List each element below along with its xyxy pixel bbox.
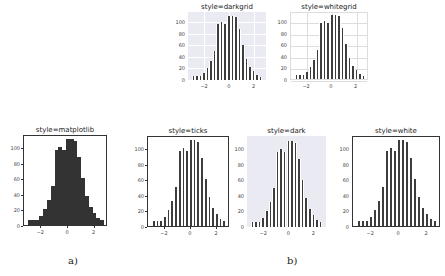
gridline-horizontal [188,80,266,81]
y-tick-mark [145,180,147,181]
y-tick-mark [21,179,23,180]
chart-title: style=ticks [169,127,208,135]
x-tick-label: 2 [252,83,255,89]
x-tick-mark [94,226,95,228]
histogram-bar [259,77,263,80]
plot-area [188,12,266,80]
y-tick-label: 80 [130,162,144,168]
y-tick-label: 40 [6,192,20,198]
y-tick-label: 100 [230,146,244,152]
chart-title: style=whitegrid [301,3,357,11]
x-tick-label: 0 [188,230,191,236]
histogram-bar [100,220,104,225]
gridline-vertical [204,12,205,80]
y-tick-label: 100 [6,145,20,151]
plot-area [290,12,368,80]
chart-title: style=dark [267,127,305,135]
y-tick-label: 20 [171,65,185,71]
gridline-vertical [307,13,308,79]
y-tick-label: 0 [230,224,244,230]
y-tick-label: 100 [171,19,185,25]
x-tick-label: −2 [200,83,207,89]
y-tick-label: 60 [171,42,185,48]
y-tick-label: 60 [130,177,144,183]
gridline-horizontal [291,81,367,82]
x-tick-mark [40,226,41,228]
x-tick-label: 0 [287,230,290,236]
y-tick-label: 60 [230,177,244,183]
y-tick-mark [145,196,147,197]
y-tick-mark [21,210,23,211]
y-tick-label: 80 [230,162,244,168]
y-tick-label: 20 [273,65,287,71]
y-tick-label: 60 [6,176,20,182]
y-tick-label: 80 [171,31,185,37]
y-tick-label: 20 [130,208,144,214]
y-tick-label: 60 [335,177,349,183]
y-tick-label: 100 [273,19,287,25]
caption-a: a) [68,255,78,266]
plot-area [247,136,326,227]
y-tick-mark [145,149,147,150]
y-tick-mark [145,227,147,228]
x-tick-mark [190,227,191,229]
y-tick-label: 40 [171,54,185,60]
chart-title: style=matplotlib [36,126,94,134]
y-tick-label: 40 [130,193,144,199]
chart-title: style=darkgrid [201,3,253,11]
y-tick-label: 40 [335,193,349,199]
x-tick-label: 2 [214,230,217,236]
x-tick-label: 2 [92,229,95,235]
y-tick-mark [145,211,147,212]
y-tick-mark [21,226,23,227]
x-tick-label: −2 [37,229,44,235]
y-tick-mark [21,195,23,196]
y-tick-label: 100 [130,146,144,152]
x-tick-label: −2 [302,83,309,89]
histogram-bar [319,222,323,227]
y-tick-mark [21,164,23,165]
y-tick-label: 0 [6,223,20,229]
y-tick-label: 60 [273,42,287,48]
caption-b: b) [287,255,297,266]
x-tick-mark [67,226,68,228]
x-tick-label: 2 [424,230,427,236]
x-tick-label: 0 [329,83,332,89]
plot-area [147,136,229,227]
plot-area [23,135,107,226]
histogram-bar [362,76,366,79]
y-tick-label: 0 [273,77,287,83]
x-tick-mark [164,227,165,229]
y-tick-label: 80 [273,31,287,37]
y-tick-label: 20 [335,208,349,214]
plot-area [352,136,440,227]
y-tick-label: 0 [130,224,144,230]
y-tick-label: 40 [273,54,287,60]
x-tick-label: 0 [397,230,400,236]
y-tick-mark [21,148,23,149]
x-tick-label: 0 [65,229,68,235]
y-tick-label: 0 [335,224,349,230]
y-tick-label: 80 [6,161,20,167]
y-tick-label: 40 [230,193,244,199]
x-tick-label: −2 [160,230,167,236]
y-tick-label: 20 [230,208,244,214]
y-tick-label: 80 [335,162,349,168]
y-tick-label: 100 [335,146,349,152]
y-tick-mark [145,165,147,166]
x-tick-label: 0 [227,83,230,89]
histogram-bar [222,221,226,226]
histogram-bar [433,221,437,226]
y-tick-label: 20 [6,207,20,213]
x-tick-mark [216,227,217,229]
x-tick-label: −2 [366,230,373,236]
y-tick-label: 0 [171,77,185,83]
chart-title: style=white [375,127,417,135]
x-tick-label: 2 [354,83,357,89]
x-tick-label: −2 [260,230,267,236]
x-tick-label: 2 [312,230,315,236]
